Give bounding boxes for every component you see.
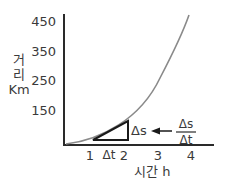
delta-s-label: Δs — [131, 124, 147, 138]
arrow-left-icon — [151, 128, 160, 135]
y-axis-title-3: Km — [4, 82, 34, 97]
x-axis-title: 시간 h — [134, 164, 170, 179]
x-tick-2: 2 — [117, 149, 131, 163]
fraction-numerator: Δs — [174, 118, 198, 131]
y-tick-250: 250 — [31, 74, 56, 88]
y-axis-title-1: 거 — [4, 52, 34, 67]
x-tick-4: 4 — [184, 149, 198, 163]
x-tick-3: 3 — [151, 149, 165, 163]
x-tick-1: 1 — [83, 149, 97, 163]
y-tick-350: 350 — [31, 45, 56, 59]
y-tick-150: 150 — [31, 104, 56, 118]
y-axis-title-2: 리 — [4, 67, 34, 82]
y-tick-450: 450 — [31, 15, 56, 29]
fraction-denominator: Δt — [174, 134, 198, 147]
slope-triangle — [93, 121, 128, 140]
